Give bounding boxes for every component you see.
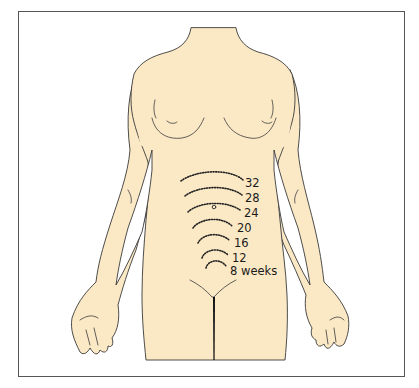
label-16-weeks: 16 (234, 238, 249, 250)
label-12-weeks: 12 (232, 253, 247, 265)
female-torso-diagram (0, 0, 419, 388)
label-20-weeks: 20 (237, 223, 252, 235)
label-24-weeks: 24 (244, 208, 259, 220)
label-28-weeks: 28 (245, 193, 260, 205)
label-8-weeks: 8 weeks (230, 266, 277, 278)
torso (131, 28, 295, 360)
label-32-weeks: 32 (245, 178, 260, 190)
